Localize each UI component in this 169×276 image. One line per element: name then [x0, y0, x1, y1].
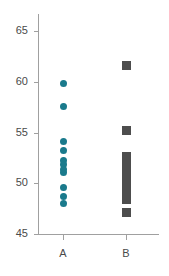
data-point	[60, 193, 67, 200]
data-point	[122, 126, 131, 135]
data-point	[122, 208, 131, 217]
data-point	[60, 184, 67, 191]
data-point	[122, 195, 131, 204]
data-point	[60, 103, 67, 110]
data-points-layer	[0, 0, 169, 276]
data-point	[122, 61, 131, 70]
data-point	[60, 138, 67, 145]
data-point	[60, 169, 67, 176]
data-point	[60, 147, 67, 154]
dot-plot-chart: 4550556065 AB	[0, 0, 169, 276]
data-point	[60, 200, 67, 207]
data-point	[60, 80, 67, 87]
